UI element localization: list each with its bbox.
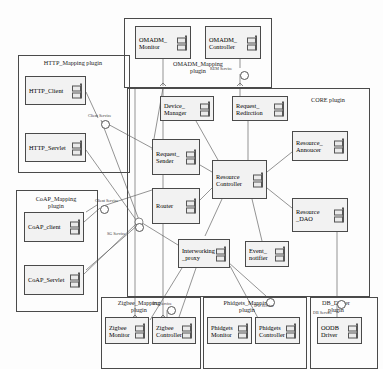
component-stereotype-icon: [276, 247, 285, 262]
component-label: OODB Driver: [321, 323, 339, 337]
component-stereotype-icon: [71, 273, 80, 288]
component-label: HTTP_Client: [29, 87, 63, 94]
component-phidgets_monitor[interactable]: Phidgets Monitor: [207, 317, 252, 344]
interface-label-ipu_service_2: IPU Service: [254, 303, 274, 308]
component-router[interactable]: Router: [152, 188, 200, 224]
component-stereotype-icon: [71, 220, 80, 235]
component-label: OMADM_ Monitor: [139, 35, 167, 49]
component-label: Phidgets Monitor: [211, 323, 233, 337]
component-label: CoAP_Servlet: [28, 276, 64, 283]
interface-label-ipu_service_1: IPU Service: [152, 301, 172, 306]
component-stereotype-icon: [183, 323, 192, 338]
component-event_notifier[interactable]: Event_ notifier: [245, 241, 289, 267]
component-stereotype-icon: [187, 199, 196, 214]
component-http_servlet[interactable]: HTTP_Servlet: [25, 133, 86, 162]
interface-label-client_service_2: Client Service: [95, 198, 118, 203]
component-coap_servlet[interactable]: CoAP_Servlet: [24, 265, 84, 295]
component-label: Phidgets Controller: [259, 323, 285, 337]
component-label: Request_ Sender: [156, 150, 179, 164]
component-stereotype-icon: [275, 101, 284, 116]
diagram-canvas: OMADM_Mapping plugin HTTP_Mapping plugin…: [0, 0, 383, 369]
component-label: Event_ notifier: [249, 247, 268, 261]
component-stereotype-icon: [335, 139, 344, 154]
component-stereotype-icon: [349, 323, 358, 338]
component-label: OMADM_ Controller: [209, 35, 237, 49]
interface-ball-rem_service[interactable]: [240, 71, 249, 80]
component-resource_ctrl[interactable]: Resource Controller: [212, 160, 267, 199]
component-stereotype-icon: [239, 323, 248, 338]
interface-label-client_service_1: Client Service: [88, 113, 111, 118]
component-label: Zigbee Monitor: [109, 323, 130, 337]
component-label: HTTP_Servlet: [29, 144, 66, 151]
package-label-http: HTTP_Mapping plugin: [22, 59, 124, 66]
interface-label-rem_service: REM Service: [210, 66, 232, 71]
component-stereotype-icon: [254, 172, 263, 187]
component-request_sender[interactable]: Request_ Sender: [152, 139, 200, 175]
interface-ball-db_service[interactable]: [337, 300, 346, 309]
interface-ball-client_service_1[interactable]: [101, 120, 110, 129]
component-label: Interworking _proxy: [182, 246, 215, 260]
component-request_redir[interactable]: Request_ Redirction: [232, 96, 288, 121]
component-device_manager[interactable]: Device_ Manager: [160, 96, 214, 121]
component-zigbee_ctrl[interactable]: Zigbee Controller: [152, 317, 196, 344]
component-zigbee_monitor[interactable]: Zigbee Monitor: [105, 317, 149, 344]
component-stereotype-icon: [335, 208, 344, 223]
component-label: CoAP_client: [28, 223, 61, 230]
component-interwork_proxy[interactable]: Interworking _proxy: [178, 239, 230, 268]
component-phidgets_ctrl[interactable]: Phidgets Controller: [255, 317, 300, 344]
component-stereotype-icon: [187, 150, 196, 165]
component-omadm_monitor[interactable]: OMADM_ Monitor: [135, 26, 191, 59]
component-stereotype-icon: [136, 323, 145, 338]
interface-ball-client_service_2[interactable]: [100, 205, 109, 214]
interface-label-sg_service: SG Service: [107, 231, 126, 236]
interface-ball-ipu_service_1[interactable]: [167, 306, 176, 315]
interface-ball-sg_service[interactable]: [135, 223, 144, 232]
component-stereotype-icon: [73, 83, 82, 98]
component-stereotype-icon: [178, 35, 187, 50]
interface-label-db_service: DB Service: [313, 310, 332, 315]
component-label: Request_ Redirction: [236, 101, 263, 115]
package-label-core: CORE plugin: [296, 96, 360, 103]
component-stereotype-icon: [287, 323, 296, 338]
component-label: Resource _DAO: [296, 208, 319, 222]
package-label-coap: CoAP_Mapping plugin: [20, 195, 92, 209]
component-oodb_driver[interactable]: OODB Driver: [317, 317, 362, 344]
component-resource_annoucer[interactable]: Resource_ Annoucer: [292, 131, 348, 161]
component-label: Zigbee Controller: [156, 323, 182, 337]
component-label: Router: [156, 202, 173, 209]
component-label: Resource Controller: [216, 172, 242, 186]
component-label: Device_ Manager: [164, 101, 186, 115]
component-stereotype-icon: [73, 140, 82, 155]
component-omadm_controller[interactable]: OMADM_ Controller: [205, 26, 261, 59]
component-stereotype-icon: [248, 35, 257, 50]
component-stereotype-icon: [201, 101, 210, 116]
component-resource_dao[interactable]: Resource _DAO: [292, 198, 348, 232]
component-http_client[interactable]: HTTP_Client: [25, 76, 86, 105]
component-label: Resource_ Annoucer: [296, 139, 323, 153]
component-coap_client[interactable]: CoAP_client: [24, 212, 84, 242]
component-stereotype-icon: [217, 246, 226, 261]
